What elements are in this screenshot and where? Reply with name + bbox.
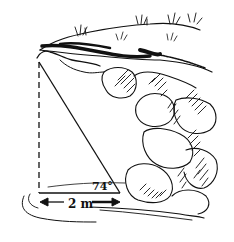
right-triangle: [39, 62, 120, 193]
cliff-triangle-diagram: [0, 0, 234, 242]
hypotenuse-line: [39, 62, 120, 193]
distance-label: 2 m: [68, 197, 93, 211]
arrowhead-right-icon: [112, 198, 120, 206]
arrowhead-left-icon: [40, 198, 48, 206]
angle-label: 74°: [92, 180, 113, 193]
cliff-illustration: [22, 13, 217, 222]
